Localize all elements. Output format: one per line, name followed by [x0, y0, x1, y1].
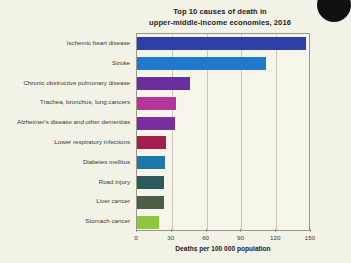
bar-row: [137, 212, 311, 232]
bar: [137, 156, 165, 169]
bar: [137, 57, 266, 70]
y-axis-label: Road injury: [2, 178, 130, 186]
y-axis-label: Stroke: [2, 59, 130, 67]
chart-title-line-1: Top 10 causes of death in: [122, 7, 318, 18]
bar-row: [137, 54, 311, 74]
x-axis-ticks: 0306090120150: [136, 232, 310, 244]
x-tick-label: 60: [202, 234, 209, 241]
y-axis-label: Lower respiratory infections: [2, 138, 130, 146]
bar-series: [137, 34, 309, 230]
x-tick-label: 0: [134, 234, 137, 241]
bar-row: [137, 133, 311, 153]
y-axis-label: Chronic obstructive pulmonary disease: [2, 79, 130, 87]
bar-row: [137, 93, 311, 113]
y-axis-label: Liver cancer: [2, 197, 130, 205]
bar: [137, 136, 166, 149]
x-tick-mark: [240, 229, 241, 232]
chart-title: Top 10 causes of death in upper-middle-i…: [122, 7, 318, 28]
y-axis-label: Diabetes mellitus: [2, 158, 130, 166]
y-axis-label: Alzheimer's disease and other dementias: [2, 118, 130, 126]
bar-row: [137, 192, 311, 212]
bar-row: [137, 153, 311, 173]
chart-title-line-2: upper-middle-income economies, 2016: [122, 18, 318, 29]
bar-row: [137, 74, 311, 94]
x-axis-label: Deaths per 100 000 population: [136, 245, 310, 252]
y-axis-label: Trachea, bronchus, lung cancers: [2, 98, 130, 106]
x-tick-label: 120: [270, 234, 280, 241]
x-tick-mark: [171, 229, 172, 232]
y-axis-label: Ischemic heart disease: [2, 39, 130, 47]
bar-row: [137, 34, 311, 54]
bar: [137, 97, 176, 110]
bar-row: [137, 113, 311, 133]
x-tick-mark: [275, 229, 276, 232]
bar: [137, 77, 190, 90]
bar: [137, 37, 306, 50]
plot-area: [136, 33, 310, 231]
y-axis-label: Stomach cancer: [2, 217, 130, 225]
bar: [137, 196, 164, 209]
x-tick-mark: [310, 229, 311, 232]
x-tick-label: 30: [167, 234, 174, 241]
x-tick-label: 150: [305, 234, 315, 241]
bar: [137, 117, 175, 130]
x-tick-mark: [206, 229, 207, 232]
bar: [137, 216, 159, 229]
x-tick-mark: [136, 229, 137, 232]
bar: [137, 176, 164, 189]
bar-row: [137, 173, 311, 193]
y-axis-category-labels: Ischemic heart diseaseStrokeChronic obst…: [2, 33, 133, 231]
x-tick-label: 90: [237, 234, 244, 241]
